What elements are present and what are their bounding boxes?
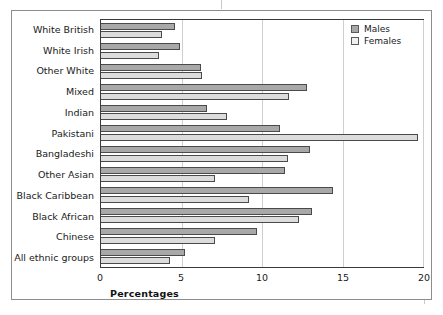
bar-females[interactable] bbox=[101, 216, 299, 223]
bar-females[interactable] bbox=[101, 31, 162, 38]
bar-males[interactable] bbox=[101, 105, 207, 112]
x-tick-label: 20 bbox=[418, 272, 430, 283]
bar-males[interactable] bbox=[101, 64, 201, 71]
gridline-20 bbox=[423, 20, 424, 267]
category-label: White British bbox=[11, 19, 98, 40]
top-tick-mark bbox=[221, 0, 222, 9]
category-axis-labels: White BritishWhite IrishOther WhiteMixed… bbox=[11, 19, 98, 268]
x-tick-label: 5 bbox=[178, 272, 184, 283]
bar-females[interactable] bbox=[101, 257, 170, 264]
bar-females[interactable] bbox=[101, 155, 288, 162]
legend-label-males: Males bbox=[364, 24, 390, 34]
bar-males[interactable] bbox=[101, 167, 285, 174]
bar-males[interactable] bbox=[101, 146, 310, 153]
bar-females[interactable] bbox=[101, 93, 289, 100]
females-swatch-icon bbox=[351, 37, 359, 45]
bar-females[interactable] bbox=[101, 196, 249, 203]
bar-group bbox=[101, 205, 423, 226]
value-axis-labels: 05101520 bbox=[0, 272, 443, 286]
chart-legend: Males Females bbox=[346, 21, 422, 50]
bar-group bbox=[101, 61, 423, 82]
category-label: Other Asian bbox=[11, 164, 98, 185]
legend-item-females[interactable]: Females bbox=[351, 36, 418, 46]
x-axis-title: Percentages bbox=[110, 288, 179, 299]
bar-females[interactable] bbox=[101, 237, 215, 244]
bar-males[interactable] bbox=[101, 249, 185, 256]
bar-females[interactable] bbox=[101, 175, 215, 182]
bar-females[interactable] bbox=[101, 52, 159, 59]
bar-females[interactable] bbox=[101, 72, 202, 79]
bar-males[interactable] bbox=[101, 43, 180, 50]
category-label: All ethnic groups bbox=[11, 247, 98, 268]
bar-males[interactable] bbox=[101, 125, 280, 132]
x-tick-label: 10 bbox=[256, 272, 268, 283]
bar-males[interactable] bbox=[101, 187, 333, 194]
category-label: Mixed bbox=[11, 81, 98, 102]
category-label: White Irish bbox=[11, 40, 98, 61]
bar-group bbox=[101, 82, 423, 103]
bar-group bbox=[101, 123, 423, 144]
bar-males[interactable] bbox=[101, 228, 257, 235]
bar-group bbox=[101, 185, 423, 206]
males-swatch-icon bbox=[351, 25, 359, 33]
bar-males[interactable] bbox=[101, 208, 312, 215]
x-tick-label: 0 bbox=[97, 272, 103, 283]
chart-figure: White BritishWhite IrishOther WhiteMixed… bbox=[0, 0, 443, 315]
category-label: Pakistani bbox=[11, 123, 98, 144]
plot-area bbox=[100, 19, 424, 268]
category-label: Other White bbox=[11, 61, 98, 82]
bar-group bbox=[101, 246, 423, 267]
x-tick-label: 15 bbox=[337, 272, 349, 283]
bar-males[interactable] bbox=[101, 84, 307, 91]
bar-females[interactable] bbox=[101, 134, 418, 141]
bar-females[interactable] bbox=[101, 113, 227, 120]
bar-group bbox=[101, 226, 423, 247]
category-label: Chinese bbox=[11, 227, 98, 248]
category-label: Black Caribbean bbox=[11, 185, 98, 206]
bar-group bbox=[101, 143, 423, 164]
bar-rows bbox=[101, 20, 423, 267]
bar-males[interactable] bbox=[101, 23, 175, 30]
bar-group bbox=[101, 102, 423, 123]
category-label: Indian bbox=[11, 102, 98, 123]
bar-group bbox=[101, 164, 423, 185]
category-label: Bangladeshi bbox=[11, 144, 98, 165]
legend-label-females: Females bbox=[364, 36, 401, 46]
category-label: Black African bbox=[11, 206, 98, 227]
legend-item-males[interactable]: Males bbox=[351, 24, 418, 34]
